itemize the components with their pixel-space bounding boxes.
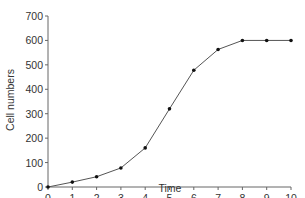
data-point bbox=[168, 107, 172, 111]
series-group bbox=[46, 39, 293, 189]
x-tick-label: 0 bbox=[45, 192, 51, 198]
y-tick-label: 300 bbox=[25, 108, 43, 120]
y-tick-label: 500 bbox=[25, 59, 43, 71]
x-tick-label: 10 bbox=[285, 192, 297, 198]
data-point bbox=[95, 175, 99, 179]
y-axis-title: Cell numbers bbox=[4, 69, 16, 131]
x-axis-title: Time bbox=[159, 182, 182, 194]
data-point bbox=[119, 166, 123, 170]
y-tick-label: 700 bbox=[25, 10, 43, 22]
x-tick-label: 4 bbox=[142, 192, 148, 198]
axes bbox=[48, 16, 291, 187]
x-tick-label: 7 bbox=[215, 192, 221, 198]
y-tick-label: 100 bbox=[25, 157, 43, 169]
data-point bbox=[143, 146, 147, 150]
y-tick-label: 0 bbox=[37, 181, 43, 193]
y-tick-label: 400 bbox=[25, 83, 43, 95]
x-tick-label: 6 bbox=[191, 192, 197, 198]
y-tick-label: 200 bbox=[25, 132, 43, 144]
data-point bbox=[289, 39, 293, 43]
x-tick-label: 1 bbox=[69, 192, 75, 198]
y-tick-label: 600 bbox=[25, 34, 43, 46]
data-point bbox=[241, 39, 245, 43]
data-point bbox=[46, 185, 50, 189]
x-tick-label: 3 bbox=[118, 192, 124, 198]
x-tick-label: 2 bbox=[94, 192, 100, 198]
y-ticks: 0100200300400500600700 bbox=[25, 10, 48, 193]
data-point bbox=[265, 39, 269, 43]
line-chart: 012345678910 0100200300400500600700 Time… bbox=[0, 0, 305, 198]
data-point bbox=[71, 180, 75, 184]
series-line bbox=[48, 40, 291, 187]
data-point bbox=[192, 68, 196, 72]
data-point bbox=[216, 48, 220, 52]
x-tick-label: 9 bbox=[264, 192, 270, 198]
x-tick-label: 8 bbox=[239, 192, 245, 198]
